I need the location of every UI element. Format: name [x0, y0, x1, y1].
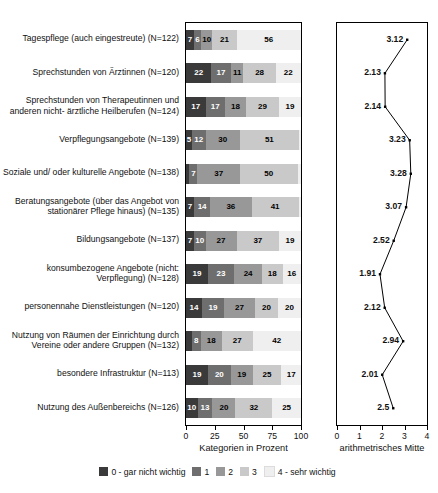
axis-tick — [405, 426, 406, 430]
legend-swatch — [240, 467, 249, 476]
bar-segment: 11 — [231, 63, 244, 83]
bar-row: 1920192517 — [186, 365, 301, 385]
bar-segment: 7 — [186, 231, 194, 251]
mean-line-plot-area — [336, 22, 428, 426]
bar-segment: 23 — [208, 264, 234, 284]
axis-tick-label: 100 — [294, 431, 308, 441]
mean-value-label: 2.52 — [373, 235, 390, 245]
legend-label: 4 - sehr wichtig — [278, 467, 336, 477]
bar-segment: 7 — [186, 30, 194, 50]
percent-axis-title: Kategorien in Prozent — [199, 443, 287, 453]
bar-segment: 37 — [237, 231, 280, 251]
mean-line-series — [337, 23, 427, 425]
bar-row: 1013203225 — [186, 398, 301, 418]
bar-segment: 25 — [272, 398, 301, 418]
mean-value-label: 2.14 — [364, 101, 381, 111]
legend-label: 2 — [228, 467, 233, 477]
legend-item: 4 - sehr wichtig — [264, 466, 336, 477]
bar-row: 5123051 — [186, 130, 301, 150]
bar-segment: 12 — [192, 130, 206, 150]
bar-segment: 19 — [186, 264, 208, 284]
mean-value-label: 3.23 — [389, 134, 406, 144]
category-label: Tagespflege (auch eingestreute) (N=122) — [0, 33, 179, 44]
bar-segment: 36 — [210, 197, 251, 217]
bar-segment: 25 — [253, 365, 282, 385]
bar-row: 76102156 — [186, 30, 301, 50]
bar-segment: 7 — [189, 164, 197, 184]
mean-marker — [393, 240, 395, 242]
mean-value-label: 2.01 — [361, 369, 378, 379]
mean-axis-title: arithmetrisches Mitte — [340, 443, 425, 453]
mean-value-label: 2.12 — [364, 302, 381, 312]
legend-label: 0 - gar nicht wichtig — [111, 467, 185, 477]
legend: 0 - gar nicht wichtig1234 - sehr wichtig — [0, 466, 438, 477]
axis-tick — [337, 426, 338, 430]
axis-tick — [301, 426, 302, 430]
bar-segment: 51 — [240, 130, 299, 150]
category-label: Nutzung von Räumen der Einrichtung durch… — [0, 330, 179, 351]
mean-marker — [410, 173, 412, 175]
category-label: konsumbezogene Angebote (nicht: Verpfleg… — [0, 263, 179, 284]
axis-tick — [186, 426, 187, 430]
mean-value-label: 2.5 — [377, 402, 389, 412]
bar-segment: 27 — [224, 298, 255, 318]
bar-segment: 14 — [194, 197, 210, 217]
axis-tick-label: 2 — [380, 431, 385, 441]
mean-marker — [392, 407, 394, 409]
mean-value-label: 3.28 — [390, 168, 407, 178]
bar-segment: 56 — [237, 30, 301, 50]
category-label: Beratungsangebote (über das Angebot von … — [0, 196, 179, 217]
bar-segment: 6 — [194, 30, 201, 50]
category-label: Sprechstunden von Ärztinnen (N=120) — [0, 67, 179, 78]
bar-segment: 22 — [186, 63, 211, 83]
bar-segment: 10 — [194, 231, 206, 251]
bar-segment: 27 — [222, 331, 253, 351]
mean-value-label: 3.07 — [385, 201, 402, 211]
chart-figure: Tagespflege (auch eingestreute) (N=122)S… — [0, 0, 438, 493]
bar-segment: 42 — [253, 331, 301, 351]
mean-marker — [384, 72, 386, 74]
axis-tick-label: 25 — [210, 431, 220, 441]
bar-row: 8182742 — [186, 331, 301, 351]
bar-row: 2217112822 — [186, 63, 301, 83]
bar-segment: 19 — [231, 365, 253, 385]
bar-row: 7143641 — [186, 197, 301, 217]
category-label: besondere Infrastruktur (N=113) — [0, 368, 179, 379]
bar-segment: 10 — [201, 30, 213, 50]
axis-tick — [272, 426, 273, 430]
bar-row: 1419272020 — [186, 298, 301, 318]
bar-segment: 16 — [283, 264, 301, 284]
bar-segment: 37 — [197, 164, 240, 184]
bar-segment: 19 — [279, 231, 301, 251]
legend-label: 3 — [252, 467, 257, 477]
mean-value-label: 3.12 — [386, 34, 403, 44]
bar-segment — [298, 164, 301, 184]
legend-item: 1 — [192, 467, 209, 477]
legend-label: 1 — [204, 467, 209, 477]
axis-tick-label: 50 — [239, 431, 249, 441]
legend-swatch — [192, 467, 201, 476]
bar-segment: 20 — [278, 298, 301, 318]
bar-segment: 17 — [186, 97, 206, 117]
axis-tick — [382, 426, 383, 430]
legend-swatch — [216, 467, 225, 476]
legend-swatch — [264, 466, 275, 477]
bar-segment: 20 — [208, 365, 231, 385]
bar-segment: 41 — [252, 197, 299, 217]
bar-segment: 19 — [202, 298, 224, 318]
mean-value-label: 2.13 — [364, 67, 381, 77]
bar-segment: 21 — [212, 30, 236, 50]
bar-segment: 18 — [201, 331, 222, 351]
legend-swatch — [99, 467, 108, 476]
bar-segment: 18 — [262, 264, 283, 284]
bar-segment: 50 — [240, 164, 298, 184]
axis-tick — [427, 426, 428, 430]
bar-segment: 20 — [212, 398, 235, 418]
category-label: Soziale und/ oder kulturelle Angebote (N… — [0, 167, 179, 178]
bar-segment — [299, 130, 301, 150]
mean-marker — [384, 106, 386, 108]
category-label: Nutzung des Außenbereichs (N=126) — [0, 402, 179, 413]
mean-marker — [406, 39, 408, 41]
axis-tick-label: 4 — [425, 431, 430, 441]
category-label: Bildungsangebote (N=137) — [0, 234, 179, 245]
